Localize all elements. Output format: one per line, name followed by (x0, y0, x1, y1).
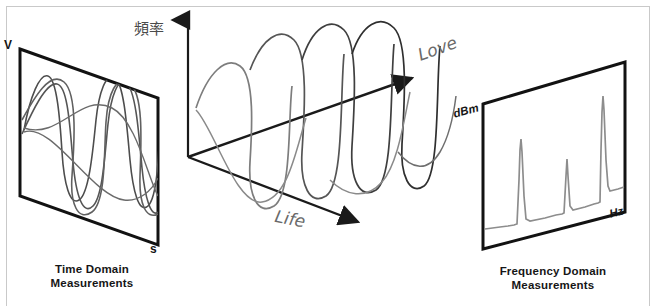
frequency-domain-panel (483, 62, 625, 249)
figure-canvas: 頻率 Love Life V s dBm Hz Time Domain Meas… (0, 0, 656, 306)
swept-wave-2 (250, 34, 344, 198)
swept-wave-3 (302, 24, 394, 192)
frequency-domain-caption: Frequency Domain Measurements (478, 264, 628, 292)
frequency-domain-plane (483, 62, 625, 249)
figure-artwork (0, 0, 656, 306)
time-domain-caption: Time Domain Measurements (22, 262, 162, 290)
time-domain-caption-line2: Measurements (22, 276, 162, 290)
voltage-axis-label: V (4, 38, 12, 52)
time-domain-panel (20, 49, 159, 245)
frequency-domain-caption-line2: Measurements (478, 278, 628, 292)
time-domain-caption-line1: Time Domain (22, 262, 162, 276)
seconds-axis-label: s (150, 242, 157, 256)
love-axis (188, 78, 412, 157)
frequency-axis-label: 頻率 (134, 17, 164, 38)
life-axis (188, 157, 358, 222)
swept-wave-1 (196, 63, 292, 209)
frequency-domain-caption-line1: Frequency Domain (478, 264, 628, 278)
